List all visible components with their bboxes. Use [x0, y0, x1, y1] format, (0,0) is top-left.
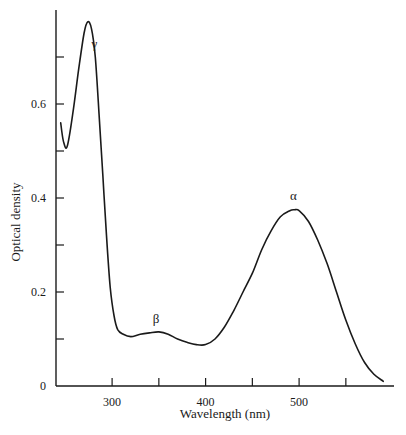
y-tick-label: 0.4 [31, 191, 46, 205]
x-tick-label: 300 [103, 395, 121, 409]
y-tick-label: 0.6 [31, 97, 46, 111]
y-tick-label: 0.2 [31, 285, 46, 299]
y-axis-label: Optical density [8, 182, 23, 262]
plot-svg: 30040050000.20.40.6 γβα Wavelength (nm) … [0, 0, 406, 435]
absorption-spectrum-chart: 30040050000.20.40.6 γβα Wavelength (nm) … [0, 0, 406, 435]
y-tick-label: 0 [40, 379, 46, 393]
alpha-peak-label: α [290, 188, 297, 203]
peak-annotations: γβα [90, 36, 297, 326]
x-axis-label: Wavelength (nm) [180, 406, 270, 421]
axes [56, 10, 394, 386]
spectrum-curve [61, 22, 384, 382]
ticks: 30040050000.20.40.6 [31, 57, 346, 409]
beta-peak-label: β [153, 311, 160, 326]
x-tick-label: 500 [290, 395, 308, 409]
gamma-peak-label: γ [90, 36, 97, 51]
